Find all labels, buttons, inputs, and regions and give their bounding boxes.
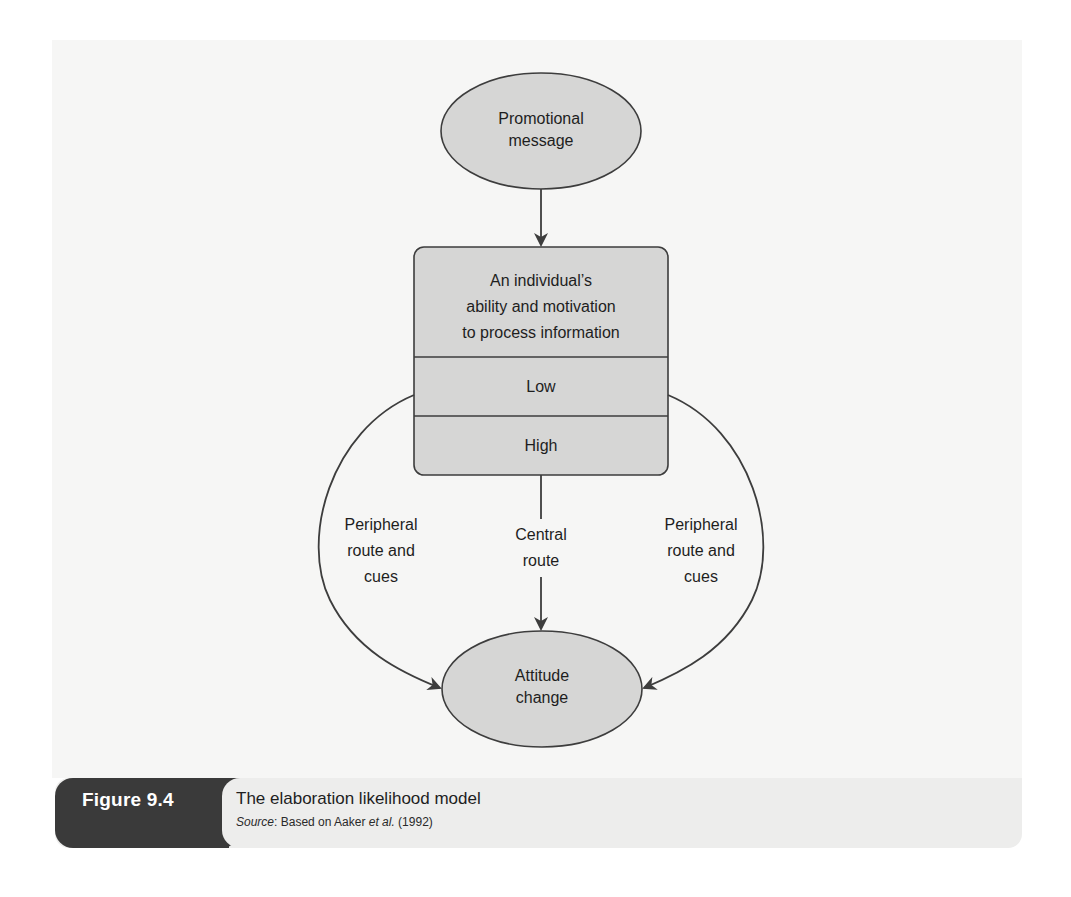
figure-title: The elaboration likelihood model — [236, 789, 481, 809]
figure-number: Figure 9.4 — [82, 789, 174, 811]
source-text: : Based on Aaker — [274, 815, 369, 829]
source-year: (1992) — [395, 815, 433, 829]
left-peripheral-route-label: Peripheral route and cues — [316, 512, 446, 590]
figure-source: Source: Based on Aaker et al. (1992) — [236, 815, 433, 829]
central-route-label: Central route — [491, 522, 591, 574]
promotional-message-label: Promotional message — [461, 108, 621, 152]
processing-box-low-label: Low — [414, 376, 668, 398]
right-peripheral-route-label: Peripheral route and cues — [636, 512, 766, 590]
processing-box-high-label: High — [414, 435, 668, 457]
source-label: Source — [236, 815, 274, 829]
processing-box-header-label: An individual’s ability and motivation t… — [414, 268, 668, 346]
attitude-change-label: Attitude change — [462, 665, 622, 709]
source-etal: et al. — [369, 815, 395, 829]
